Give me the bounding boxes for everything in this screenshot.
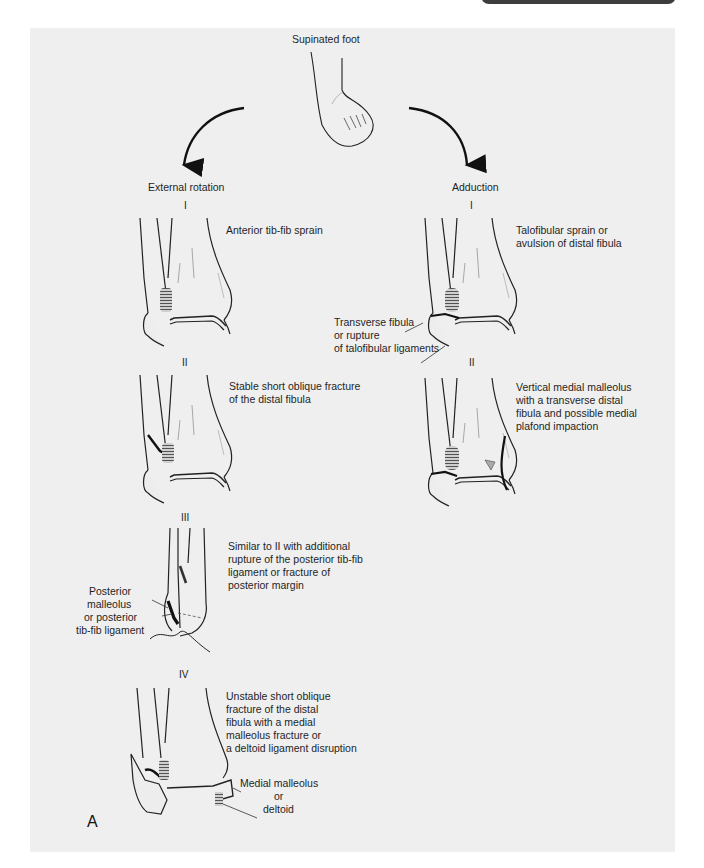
stage-description: Talofibular sprain or <box>516 224 608 237</box>
stage-numeral: II <box>469 357 475 368</box>
stage-description: Stable short oblique fracture <box>229 380 360 393</box>
stage-numeral: II <box>182 357 188 368</box>
ankle-er-stage-3 <box>150 528 210 652</box>
column-title-adduction: Adduction <box>452 181 499 194</box>
ankle-er-stage-1 <box>140 218 232 346</box>
stage-description: Vertical medial malleolus <box>516 381 632 394</box>
stage-description: avulsion of distal fibula <box>516 237 622 250</box>
callout-label: or posterior <box>84 611 137 624</box>
callout-label: Medial malleolus <box>240 777 318 790</box>
stage-description: Unstable short oblique <box>226 690 330 703</box>
stage-description: of the distal fibula <box>229 393 311 406</box>
callout-label: malleolus <box>87 598 131 611</box>
stage-description: fibula and possible medial <box>516 407 637 420</box>
callout-label: tib-fib ligament <box>76 624 144 637</box>
callout-label: Transverse fibula <box>334 316 414 329</box>
stage-description: posterior margin <box>228 579 304 592</box>
stage-description: Similar to II with additional <box>228 540 350 553</box>
stage-description: malleolus fracture or <box>226 729 321 742</box>
callout-label: or <box>274 790 283 803</box>
ankle-er-stage-2 <box>140 375 232 503</box>
callout-label: deltoid <box>263 803 294 816</box>
top-label: Supinated foot <box>292 33 360 46</box>
stage-description: ligament or fracture of <box>228 566 330 579</box>
arrow-adduction <box>409 108 467 165</box>
stage-description: rupture of the posterior tib-fib <box>228 553 363 566</box>
stage-description: fibula with a medial <box>226 716 315 729</box>
stage-description: plafond impaction <box>516 420 598 433</box>
callout-label: Posterior <box>89 585 131 598</box>
callout-label: or rupture <box>334 329 380 342</box>
stage-numeral: III <box>181 512 189 523</box>
stage-numeral: I <box>470 200 473 211</box>
stage-numeral: I <box>184 200 187 211</box>
stage-description: fracture of the distal <box>226 703 318 716</box>
arrow-external-rotation <box>184 108 244 165</box>
figure-letter: A <box>87 813 98 831</box>
figure-illustration <box>0 0 704 868</box>
stage-description: with a transverse distal <box>516 394 623 407</box>
stage-description: a deltoid ligament disruption <box>226 742 357 755</box>
column-title-external-rotation: External rotation <box>148 181 224 194</box>
supinated-foot-drawing <box>311 52 373 146</box>
stage-numeral: IV <box>179 669 188 680</box>
stage-description: Anterior tib-fib sprain <box>226 224 323 237</box>
callout-label: of talofibular ligaments <box>334 342 439 355</box>
ankle-add-stage-2 <box>425 378 517 506</box>
